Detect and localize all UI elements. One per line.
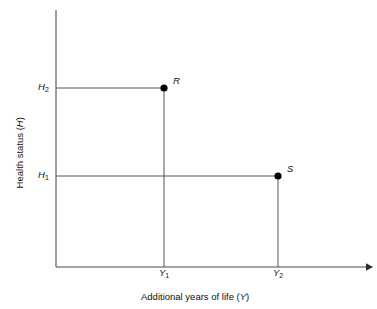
y-axis-title-prefix: Health status ( xyxy=(14,127,25,188)
x-axis-title-prefix: Additional years of life ( xyxy=(141,291,240,302)
y-axis-title-suffix: ) xyxy=(14,117,25,120)
x-tick-label-y2-subscript: 2 xyxy=(279,272,283,279)
y-tick-label-h2-variable: H xyxy=(38,81,45,92)
y-tick-label-h1-variable: H xyxy=(38,169,45,180)
x-axis-title-suffix: ) xyxy=(246,291,249,302)
y-tick-label-h2: H2 xyxy=(38,82,49,92)
y-tick-label-h2-subscript: 2 xyxy=(45,86,49,93)
y-axis-title-wrapper: Health status (H) xyxy=(0,0,24,309)
data-point-s[interactable] xyxy=(274,172,281,179)
point-label-s: S xyxy=(287,164,293,174)
data-point-r[interactable] xyxy=(160,84,167,91)
plot-canvas xyxy=(0,0,377,309)
point-label-r: R xyxy=(173,76,180,86)
y-axis-title: Health status (H) xyxy=(15,78,25,228)
y-tick-label-h1: H1 xyxy=(38,170,49,180)
x-axis-title: Additional years of life (Y) xyxy=(141,292,249,302)
x-tick-label-y1-subscript: 1 xyxy=(165,272,169,279)
y-tick-label-h1-subscript: 1 xyxy=(45,174,49,181)
x-tick-label-y1: Y1 xyxy=(159,268,169,278)
y-axis-title-variable: H xyxy=(14,120,25,127)
x-axis-arrowhead-icon xyxy=(366,263,373,271)
x-tick-label-y2: Y2 xyxy=(273,268,283,278)
health-status-years-of-life-figure: Health status (H) Additional years of li… xyxy=(0,0,377,309)
